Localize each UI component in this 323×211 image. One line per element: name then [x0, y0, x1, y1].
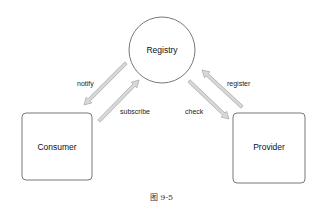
- register-arrow: [202, 70, 243, 108]
- diagram: Registry Consumer Provider notify subscr…: [0, 0, 323, 211]
- notify-label: notify: [77, 80, 94, 88]
- subscribe-label: subscribe: [120, 108, 150, 115]
- consumer-label: Consumer: [37, 142, 76, 152]
- figure-caption: 图 9-5: [0, 191, 323, 202]
- check-label: check: [185, 108, 204, 115]
- registry-label: Registry: [146, 45, 178, 55]
- register-label: register: [227, 80, 251, 88]
- provider-label: Provider: [253, 142, 285, 152]
